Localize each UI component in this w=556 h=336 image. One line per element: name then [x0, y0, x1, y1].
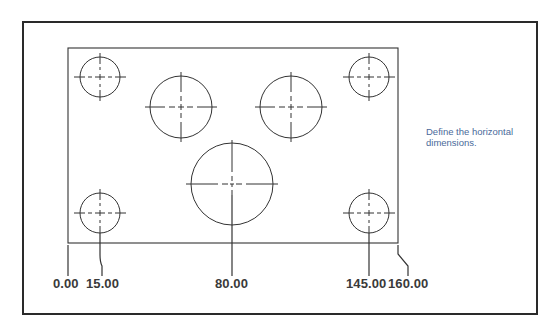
leader-15: [100, 233, 102, 276]
leader-160: [398, 245, 408, 276]
hole-upper-right-medium: [255, 72, 327, 142]
hole-bottom-left-small: [74, 189, 126, 233]
dimension-label-15: 15.00: [86, 276, 119, 292]
dimension-label-0: 0.00: [53, 276, 79, 292]
outer-frame: [23, 22, 537, 314]
dimension-label-80: 80.00: [215, 276, 248, 292]
instruction-text: Define the horizontal dimensions.: [426, 126, 536, 148]
hole-top-right-small: [343, 53, 395, 101]
dimension-label-160: 160.00: [388, 276, 428, 292]
hole-upper-left-medium: [145, 72, 217, 142]
instruction-line-1: Define the horizontal: [426, 126, 536, 137]
drawing-canvas: 0.00 15.00 80.00 145.00 160.00 Define th…: [0, 0, 556, 336]
hole-bottom-right-small: [343, 189, 395, 233]
hole-top-left-small: [74, 53, 126, 101]
instruction-line-2: dimensions.: [426, 137, 536, 148]
dimension-label-145: 145.00: [346, 276, 386, 292]
